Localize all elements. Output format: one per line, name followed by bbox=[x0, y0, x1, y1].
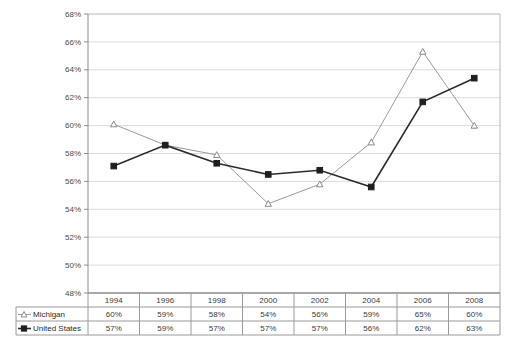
table-year-header: 1994 bbox=[105, 296, 123, 305]
data-point-united-states-2004 bbox=[368, 184, 374, 190]
table-cell: 57% bbox=[260, 324, 276, 333]
table-cell: 56% bbox=[363, 324, 379, 333]
table-cell: 54% bbox=[260, 310, 276, 319]
table-cell: 56% bbox=[312, 310, 328, 319]
table-year-header: 1998 bbox=[208, 296, 226, 305]
data-point-united-states-2006 bbox=[420, 99, 426, 105]
y-axis-tick-label: 58% bbox=[65, 149, 81, 158]
table-cell: 57% bbox=[106, 324, 122, 333]
table-row-label: Michigan bbox=[33, 310, 65, 319]
y-axis-tick-label: 52% bbox=[65, 233, 81, 242]
y-axis-tick-label: 64% bbox=[65, 65, 81, 74]
legend-marker-united-states bbox=[21, 326, 26, 331]
data-point-united-states-1998 bbox=[214, 160, 220, 166]
data-point-united-states-1994 bbox=[111, 163, 117, 169]
y-axis-tick-label: 54% bbox=[65, 205, 81, 214]
y-axis-tick-label: 48% bbox=[65, 289, 81, 298]
plot-area: 48%50%52%54%56%58%60%62%64%66%68% bbox=[65, 10, 500, 298]
y-axis-tick-label: 56% bbox=[65, 177, 81, 186]
table-row-label: United States bbox=[33, 324, 81, 333]
table-year-header: 2002 bbox=[311, 296, 329, 305]
table-cell: 62% bbox=[415, 324, 431, 333]
data-point-united-states-1996 bbox=[162, 142, 168, 148]
table-cell: 57% bbox=[312, 324, 328, 333]
table-cell: 60% bbox=[106, 310, 122, 319]
y-axis-tick-label: 50% bbox=[65, 261, 81, 270]
y-axis-tick-label: 66% bbox=[65, 38, 81, 47]
data-point-united-states-2008 bbox=[471, 75, 477, 81]
table-year-header: 1996 bbox=[156, 296, 174, 305]
chart-figure: 48%50%52%54%56%58%60%62%64%66%68% 199419… bbox=[0, 0, 529, 357]
table-cell: 63% bbox=[466, 324, 482, 333]
table-cell: 58% bbox=[209, 310, 225, 319]
table-year-header: 2008 bbox=[465, 296, 483, 305]
table-cell: 59% bbox=[363, 310, 379, 319]
table-cell: 65% bbox=[415, 310, 431, 319]
table-cell: 60% bbox=[466, 310, 482, 319]
table-cell: 59% bbox=[157, 310, 173, 319]
y-axis-tick-label: 62% bbox=[65, 93, 81, 102]
data-point-united-states-2000 bbox=[265, 172, 271, 178]
table-cell: 59% bbox=[157, 324, 173, 333]
table-year-header: 2000 bbox=[259, 296, 277, 305]
table-year-header: 2006 bbox=[414, 296, 432, 305]
y-axis-tick-label: 68% bbox=[65, 10, 81, 19]
table-cell: 57% bbox=[209, 324, 225, 333]
y-axis-tick-label: 60% bbox=[65, 121, 81, 130]
data-point-united-states-2002 bbox=[317, 167, 323, 173]
table-year-header: 2004 bbox=[362, 296, 380, 305]
